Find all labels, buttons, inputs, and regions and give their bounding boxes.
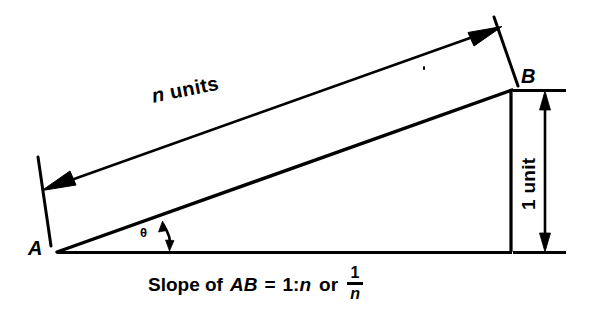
arrowhead-up-icon bbox=[540, 91, 551, 110]
angle-label-theta: θ bbox=[140, 226, 147, 239]
caption-ratio-prefix: 1: bbox=[283, 274, 300, 295]
caption-text: Slope of bbox=[148, 274, 223, 296]
scan-artifact-speck bbox=[423, 66, 425, 70]
triangle-hypotenuse-line bbox=[57, 90, 512, 252]
caption-or: or bbox=[319, 274, 338, 296]
vertex-label-a: A bbox=[28, 238, 42, 258]
diagram-canvas bbox=[0, 0, 600, 310]
dimension-line-n-units bbox=[46, 28, 498, 189]
caption-ratio-suffix: n bbox=[299, 274, 311, 295]
angle-arrowhead-bottom-icon bbox=[166, 240, 175, 251]
caption-equals: = bbox=[264, 274, 275, 296]
caption-fraction: 1 n bbox=[347, 265, 363, 302]
arrowhead-right-icon bbox=[468, 27, 502, 47]
caption: Slope of AB = 1:n or 1 n bbox=[148, 266, 363, 303]
caption-segment-ab: AB bbox=[230, 274, 257, 296]
extension-line-left bbox=[38, 157, 51, 246]
arrowhead-down-icon bbox=[540, 233, 551, 252]
fraction-numerator: 1 bbox=[348, 265, 363, 281]
slope-diagram: A B θ n units 1 unit Slope of AB = 1:n o… bbox=[0, 0, 600, 310]
fraction-denominator: n bbox=[347, 286, 363, 302]
vertex-label-b: B bbox=[521, 66, 535, 86]
dimension-label-1-unit: 1 unit bbox=[519, 158, 538, 210]
caption-ratio: 1:n bbox=[283, 274, 312, 296]
arrowhead-left-icon bbox=[42, 171, 76, 191]
